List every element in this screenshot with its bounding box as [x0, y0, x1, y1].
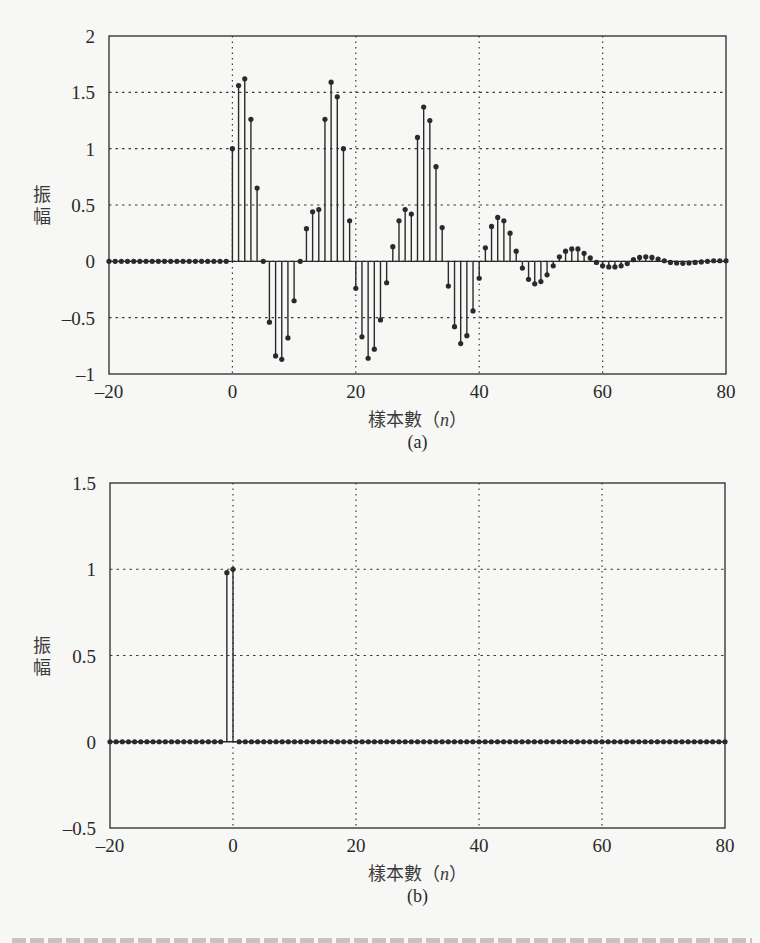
stem-marker	[526, 739, 531, 744]
stem-marker	[137, 259, 142, 264]
stem-marker	[254, 186, 259, 191]
stem-marker	[649, 255, 654, 260]
stem-marker	[261, 259, 266, 264]
stem-marker	[440, 739, 445, 744]
x-tick-label: 40	[470, 835, 489, 856]
stem-marker	[526, 277, 531, 282]
stem-marker	[273, 739, 278, 744]
stem-marker	[556, 739, 561, 744]
x-axis-label-paren: ）	[449, 409, 467, 430]
x-axis-label-var: n	[440, 864, 449, 884]
stem-marker	[187, 259, 192, 264]
x-tick-labels: –20020406080	[95, 835, 735, 856]
y-axis-label-char: 幅	[33, 657, 51, 678]
y-tick-label: 0.5	[72, 646, 96, 667]
stem-marker	[353, 286, 358, 291]
stem-marker	[236, 83, 241, 88]
stem-marker	[704, 739, 709, 744]
stem-marker	[667, 739, 672, 744]
stem-marker	[587, 739, 592, 744]
stem-marker	[390, 244, 395, 249]
x-axis-label-text: 樣本數（	[368, 863, 440, 884]
stem-marker	[464, 333, 469, 338]
stem-marker	[489, 739, 494, 744]
stem-marker	[649, 739, 654, 744]
stem-marker	[193, 259, 198, 264]
stem-marker	[285, 335, 290, 340]
stem-marker	[174, 259, 179, 264]
x-axis-label-paren: ）	[449, 863, 467, 884]
stem-marker	[230, 146, 235, 151]
y-tick-label: –0.5	[62, 818, 96, 839]
y-tick-label: 0.5	[71, 195, 95, 216]
stem-marker	[353, 739, 358, 744]
stem-marker	[501, 218, 506, 223]
stem-marker	[304, 226, 309, 231]
stem-marker	[489, 224, 494, 229]
x-axis-label: 樣本數（n）	[368, 409, 467, 430]
stem-marker	[157, 739, 162, 744]
x-axis-label-var: n	[440, 410, 449, 430]
stem-marker	[476, 739, 481, 744]
stem-marker	[538, 739, 543, 744]
stem-marker	[329, 80, 334, 85]
stem-marker	[396, 739, 401, 744]
stem-marker	[267, 739, 272, 744]
stem-marker	[384, 739, 389, 744]
stem-plot-b: –20020406080 –0.500.511.5 振幅 樣本數（n） (b)	[33, 473, 735, 907]
stem-marker	[132, 739, 137, 744]
stem-marker	[501, 739, 506, 744]
stem-marker	[514, 249, 519, 254]
stem-marker	[359, 334, 364, 339]
figure: –20020406080 –1–0.500.511.52 振幅 樣本數（n） (…	[0, 0, 760, 943]
stem-marker	[630, 739, 635, 744]
y-axis-label: 振幅	[33, 184, 51, 227]
stem-marker	[661, 739, 666, 744]
stem-marker	[280, 739, 285, 744]
stem-marker	[230, 567, 235, 572]
stem-marker	[415, 739, 420, 744]
x-tick-label: –20	[95, 835, 125, 856]
stem-marker	[636, 739, 641, 744]
stem-marker	[323, 739, 328, 744]
stem-marker	[593, 739, 598, 744]
stem-marker	[218, 739, 223, 744]
stem-marker	[612, 264, 617, 269]
stem-marker	[477, 276, 482, 281]
stem-marker	[452, 739, 457, 744]
stem-marker	[162, 259, 167, 264]
x-tick-label: 20	[346, 381, 365, 402]
stem-marker	[464, 739, 469, 744]
stem-marker	[599, 739, 604, 744]
stem-marker	[163, 739, 168, 744]
x-tick-label: 60	[593, 835, 612, 856]
stem-marker	[569, 739, 574, 744]
stem-marker	[396, 218, 401, 223]
stem-marker	[421, 104, 426, 109]
stem-marker	[366, 739, 371, 744]
stem-marker	[662, 258, 667, 263]
stem-marker	[470, 739, 475, 744]
stem-marker	[483, 245, 488, 250]
stem-marker	[427, 739, 432, 744]
stem-marker	[322, 117, 327, 122]
y-tick-label: 1	[87, 559, 97, 580]
stem-marker	[588, 255, 593, 260]
stem-marker	[415, 135, 420, 140]
stem-marker	[205, 259, 210, 264]
stem-marker	[495, 215, 500, 220]
stem-marker	[175, 739, 180, 744]
y-tick-label: –1	[75, 364, 95, 385]
stem-marker	[169, 739, 174, 744]
stem-marker	[624, 739, 629, 744]
stem-marker	[341, 739, 346, 744]
stem-marker	[329, 739, 334, 744]
x-tick-label: 80	[716, 835, 735, 856]
stem-marker	[711, 258, 716, 263]
stem-marker	[563, 739, 568, 744]
stem-marker	[470, 308, 475, 313]
stem-marker	[581, 739, 586, 744]
y-tick-label: 1	[86, 139, 96, 160]
stem-marker	[563, 249, 568, 254]
x-tick-label: 20	[347, 835, 366, 856]
